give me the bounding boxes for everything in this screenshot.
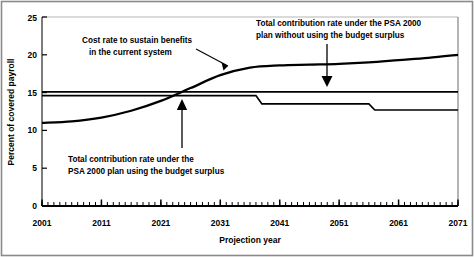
chart-figure: 0 5 10 15 20 25 Percent of covered payro… bbox=[0, 0, 474, 257]
x-tick-label: 2051 bbox=[330, 218, 349, 228]
y-tick-label: 0 bbox=[32, 201, 37, 211]
x-tick-label: 2041 bbox=[270, 218, 289, 228]
x-tick-label: 2031 bbox=[211, 218, 230, 228]
x-tick-label: 2071 bbox=[449, 218, 468, 228]
annotation-text-line: plan without using the budget surplus bbox=[256, 31, 405, 40]
y-tick-label: 25 bbox=[28, 13, 38, 23]
x-axis-title: Projection year bbox=[219, 235, 281, 245]
annotation-text-line: Cost rate to sustain benefits bbox=[82, 36, 193, 45]
y-tick-label: 10 bbox=[28, 125, 38, 135]
annotation-text-line: Total contribution rate under the bbox=[68, 155, 194, 164]
annotation-text-line: in the current system bbox=[89, 48, 172, 57]
y-axis-title: Percent of covered payroll bbox=[6, 59, 16, 166]
x-tick-label: 2011 bbox=[92, 218, 111, 228]
x-tick-label: 2021 bbox=[151, 218, 170, 228]
y-tick-label: 15 bbox=[28, 88, 38, 98]
annotation-text-line: Total contribution rate under the PSA 20… bbox=[256, 19, 422, 28]
x-tick-label: 2001 bbox=[33, 218, 52, 228]
y-tick-label: 20 bbox=[28, 50, 38, 60]
x-tick-label: 2061 bbox=[389, 218, 408, 228]
y-tick-label: 5 bbox=[32, 163, 37, 173]
annotation-text-line: PSA 2000 plan using the budget surplus bbox=[68, 167, 225, 176]
chart-canvas: 0 5 10 15 20 25 Percent of covered payro… bbox=[0, 0, 474, 257]
